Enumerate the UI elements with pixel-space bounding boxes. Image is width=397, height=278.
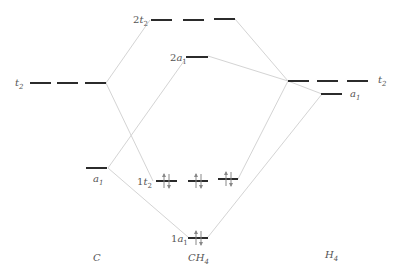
h-t2-level: t2	[288, 74, 387, 88]
c-t2-label: t2	[15, 77, 24, 91]
m-1t2-label: 1t2	[137, 176, 152, 190]
m-1t2-level: 1t2	[137, 171, 238, 190]
line-ca1-1a1	[108, 168, 188, 237]
mo-diagram: t2 a1 2t2 2a1 1t2	[0, 0, 397, 278]
line-2a1-ha1b	[288, 81, 322, 94]
h-a1-label: a1	[350, 88, 360, 102]
column-label-h4: H4	[324, 249, 338, 263]
m-2a1-label: 2a1	[170, 52, 187, 66]
line-2a1-ha1	[208, 56, 288, 81]
h-a1-level: a1	[321, 88, 360, 102]
line-ca1-2a1	[108, 61, 184, 168]
column-label-ch4: CH4	[188, 252, 209, 266]
m-2t2-level: 2t2	[133, 14, 235, 28]
h-t2-label: t2	[378, 74, 387, 88]
c-a1-label: a1	[93, 173, 103, 187]
c-a1-level: a1	[86, 168, 107, 187]
column-label-c: C	[93, 252, 101, 263]
m-2t2-label: 2t2	[133, 14, 148, 28]
line-2t2-ht2	[235, 19, 288, 81]
line-ct2-2t2	[106, 20, 150, 83]
m-2a1-level: 2a1	[170, 52, 208, 66]
line-1a1-ha1	[208, 94, 322, 237]
correlation-lines	[106, 19, 322, 237]
m-1a1-level: 1a1	[171, 230, 208, 247]
c-t2-level: t2	[15, 77, 106, 91]
line-ct2-1t2	[106, 83, 153, 181]
line-1t2-ht2	[238, 81, 288, 179]
